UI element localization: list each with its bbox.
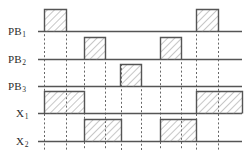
signal-label-subscript: 2 — [25, 140, 29, 149]
pulse-fill-PB1 — [45, 10, 67, 32]
signal-label-X1: X1 — [16, 108, 28, 119]
timing-diagram: PB1PB2PB3X1X2 — [0, 0, 247, 157]
signal-label-subscript: 2 — [22, 58, 26, 67]
pulse-fill-PB2 — [85, 38, 106, 60]
signal-label-text: PB — [8, 53, 22, 65]
signal-label-text: PB — [8, 25, 22, 37]
pulse-fill-X2 — [161, 120, 197, 142]
signal-label-subscript: 3 — [22, 85, 26, 94]
signal-label-PB1: PB1 — [8, 26, 26, 37]
signal-pulses — [45, 10, 243, 142]
pulse-fill-PB3 — [121, 65, 142, 87]
timing-diagram-canvas — [0, 0, 247, 157]
pulse-fill-PB2 — [161, 38, 182, 60]
signal-label-text: X — [16, 135, 24, 147]
signal-label-PB2: PB2 — [8, 54, 26, 65]
signal-label-PB3: PB3 — [8, 81, 26, 92]
pulse-fill-X1 — [45, 92, 85, 114]
pulse-fill-PB1 — [197, 10, 219, 32]
signal-label-X2: X2 — [16, 136, 28, 147]
signal-label-text: X — [16, 107, 24, 119]
pulse-fill-X2 — [85, 120, 122, 142]
pulse-fill-X1 — [197, 92, 243, 114]
signal-label-subscript: 1 — [22, 30, 26, 39]
signal-label-text: PB — [8, 80, 22, 92]
signal-label-subscript: 1 — [25, 112, 29, 121]
